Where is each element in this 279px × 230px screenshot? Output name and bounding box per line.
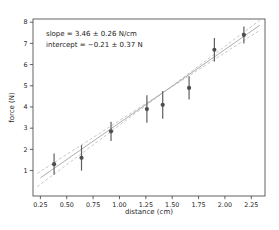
y-tick-label: 1 [23,167,27,175]
y-tick-label: 5 [23,82,27,90]
x-tick-label: 2.00 [218,201,232,209]
y-tick-label: 4 [23,103,27,111]
y-tick-label: 8 [23,18,27,26]
x-tick-label: 0.75 [86,201,100,209]
x-tick-label: 0.25 [33,201,47,209]
figure: 0.250.500.751.001.251.501.752.002.25 123… [0,0,279,230]
y-tick-label: 3 [23,124,27,132]
data-point [109,129,113,133]
data-point [79,156,83,160]
data-point [187,86,191,90]
y-tick-label: 7 [23,40,27,48]
x-tick-label: 0.50 [60,201,74,209]
data-point [212,48,216,52]
x-axis-label: distance (cm) [125,208,173,216]
annotation-slope: slope = 3.46 ± 0.26 N/cm [46,30,137,38]
x-tick-label: 1.75 [191,201,205,209]
data-point [242,33,246,37]
chart-canvas: 0.250.500.751.001.251.501.752.002.25 123… [0,0,279,230]
data-point [145,107,149,111]
data-point [161,103,165,107]
annotation-intercept: intercept = −0.21 ± 0.37 N [46,41,143,49]
y-tick-label: 2 [23,146,27,154]
y-tick-label: 6 [23,61,27,69]
data-point [52,162,56,166]
y-axis-ticks: 12345678 [23,18,33,174]
x-tick-label: 2.25 [244,201,258,209]
y-axis-label: force (N) [8,92,16,123]
